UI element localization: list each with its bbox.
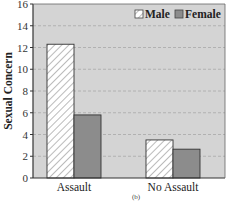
y-tick-label: 2 (23, 150, 29, 162)
bar-male-no-assault (146, 140, 173, 178)
y-axis-title: Sexual Concern (2, 52, 14, 130)
y-axis-ticks: 0246810121416 (17, 0, 33, 184)
legend-swatch-female (175, 10, 183, 18)
y-tick-label: 14 (17, 20, 29, 32)
y-tick-label: 16 (17, 0, 29, 10)
bar-male-assault (47, 44, 74, 178)
legend-label-male: Male (145, 8, 170, 20)
bar-chart: 0246810121416 AssaultNo Assault Sexual C… (0, 0, 229, 202)
legend-label-female: Female (185, 8, 221, 20)
x-category-label: No Assault (148, 181, 200, 193)
y-tick-label: 4 (23, 129, 29, 141)
x-category-label: Assault (57, 181, 92, 193)
x-axis-categories: AssaultNo Assault (57, 181, 199, 193)
bar-female-assault (74, 115, 101, 178)
y-tick-label: 8 (23, 85, 29, 97)
y-tick-label: 0 (23, 172, 29, 184)
legend: MaleFemale (135, 8, 221, 20)
y-tick-label: 10 (17, 63, 29, 75)
figure-caption: (b) (132, 193, 141, 201)
y-tick-label: 12 (17, 42, 28, 54)
y-tick-label: 6 (23, 107, 29, 119)
legend-swatch-male (135, 10, 143, 18)
bar-female-no-assault (173, 149, 200, 178)
